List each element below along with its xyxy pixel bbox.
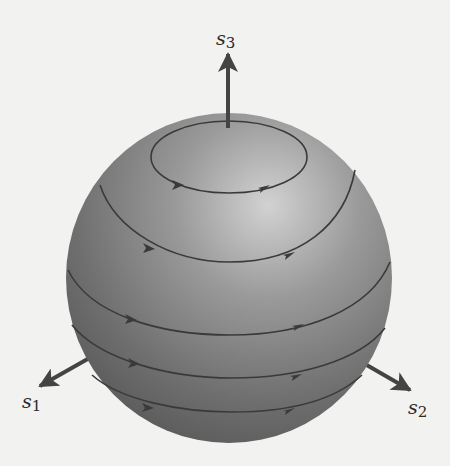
sphere (66, 113, 392, 443)
label-s1: s1 (22, 390, 41, 415)
label-s2: s2 (408, 396, 427, 421)
poincare-sphere-diagram: s3 s1 s2 (0, 0, 450, 466)
label-s3: s3 (216, 27, 235, 52)
